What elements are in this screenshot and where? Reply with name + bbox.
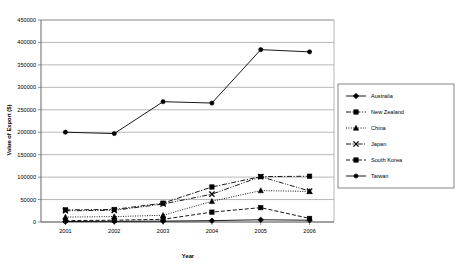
x-tick-label: 2003 [157,228,169,234]
data-point [259,205,263,209]
chart-legend: AustraliaNew ZealandChinaJapanSouth Kore… [338,84,454,188]
data-point [112,131,116,135]
y-tick-label: 400000 [17,39,36,45]
x-tick-label: 2001 [59,228,71,234]
legend-label: New Zealand [371,109,404,115]
x-tick-label: 2004 [206,228,218,234]
y-tick-label: 100000 [17,174,36,180]
legend-marker [354,158,358,162]
x-tick-label: 2006 [303,228,315,234]
data-point [63,130,67,134]
data-point [307,50,311,54]
y-tick-label: 200000 [17,129,36,135]
x-tick-label: 2005 [255,228,267,234]
data-point [112,218,116,222]
line-chart: 0500001000001500002000002500003000003500… [0,0,458,267]
x-axis-title: Year [182,253,195,259]
y-tick-label: 50000 [20,197,36,203]
y-tick-label: 350000 [17,62,36,68]
legend-label: China [371,125,387,131]
data-point [210,210,214,214]
chart-container: 0500001000001500002000002500003000003500… [0,0,458,267]
legend-box [338,84,454,188]
legend-marker [354,110,358,114]
legend-label: South Korea [371,157,403,163]
legend-label: Taiwan [371,173,388,179]
y-tick-label: 450000 [17,17,36,23]
y-tick-label: 150000 [17,152,36,158]
data-point [161,217,165,221]
data-point [210,101,214,105]
legend-item-new-zealand: New Zealand [346,109,404,115]
legend-item-south-korea: South Korea [346,157,403,163]
y-axis-title: Value of Export ($) [6,104,12,155]
legend-label: Japan [371,141,386,147]
data-point [307,216,311,220]
data-point [210,185,214,189]
data-point [63,218,67,222]
y-tick-label: 300000 [17,84,36,90]
legend-label: Australia [371,93,394,99]
y-tick-label: 250000 [17,107,36,113]
y-tick-label: 0 [33,219,36,225]
data-point [161,100,165,104]
data-point [307,174,311,178]
x-tick-label: 2002 [108,228,120,234]
data-point [259,48,263,52]
legend-marker [354,174,358,178]
